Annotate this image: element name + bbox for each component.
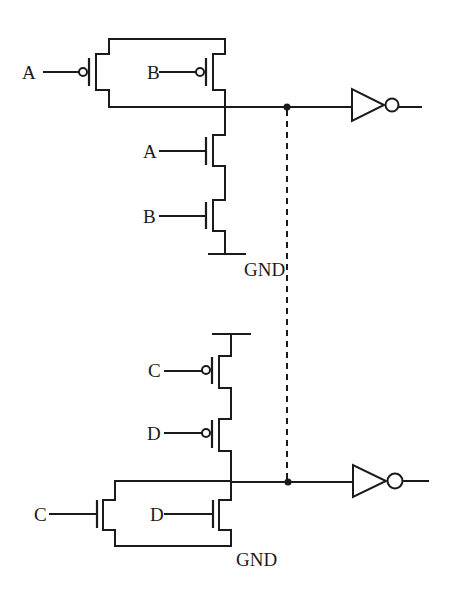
label-bot-gnd: GND (236, 549, 277, 570)
channel (219, 409, 231, 482)
label-top-pmos-b: B (147, 62, 160, 83)
pmos-bubble (202, 366, 210, 374)
channel (213, 135, 225, 200)
channel (213, 39, 225, 107)
channel (219, 481, 231, 546)
label-bot-nmos-c: C (34, 504, 47, 525)
label-top-pmos-a: A (22, 62, 36, 83)
label-top-gnd: GND (244, 259, 285, 280)
label-bot-pmos-c: C (148, 360, 161, 381)
channel (213, 200, 225, 254)
bot-pmos-c (165, 334, 231, 409)
bot-nmos-c (50, 481, 115, 546)
bot-output-node (285, 479, 292, 486)
bottom-circuit: C D C D GND (34, 334, 428, 570)
inverter-triangle (352, 89, 384, 121)
pmos-bubble (202, 429, 210, 437)
top-nmos-a (160, 135, 225, 200)
bot-pmos-d (165, 409, 231, 482)
top-pmos-a (44, 39, 109, 107)
circuit-diagram: A B A B GND (0, 0, 452, 596)
label-bot-nmos-d: D (150, 504, 164, 525)
bot-inverter (353, 465, 428, 497)
inverter-bubble (388, 474, 403, 489)
label-top-nmos-a: A (143, 141, 157, 162)
channel (103, 481, 115, 546)
top-output-node (284, 104, 291, 111)
top-inverter (352, 89, 421, 121)
top-pmos-b (160, 39, 225, 107)
label-bot-pmos-d: D (147, 423, 161, 444)
label-top-nmos-b: B (143, 206, 156, 227)
pmos-bubble (79, 68, 87, 76)
pmos-bubble (196, 68, 204, 76)
inverter-triangle (353, 465, 386, 497)
top-nmos-b (160, 200, 225, 254)
top-circuit: A B A B GND (22, 39, 421, 280)
channel (96, 39, 109, 107)
bot-nmos-d (165, 481, 231, 546)
inverter-bubble (386, 99, 399, 112)
channel (219, 334, 231, 409)
